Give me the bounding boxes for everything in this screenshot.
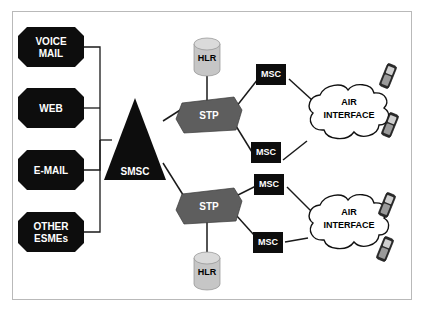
cloud-air-interface-upper[interactable]: AIR INTERFACE <box>309 85 388 139</box>
link-stp-upper-msc1 <box>236 79 258 107</box>
msc-lower-2[interactable]: MSC <box>253 232 283 253</box>
stp-upper-label: STP <box>199 110 219 121</box>
hlr-upper[interactable]: HLR <box>194 38 220 76</box>
smsc-node[interactable]: SMSC <box>104 98 166 180</box>
link-msc-upper2-cloud <box>283 141 307 160</box>
link-smsc-stp-lower <box>163 163 185 198</box>
link-msc-lower1-cloud <box>287 187 312 212</box>
msc-lower-2-label: MSC <box>258 237 279 247</box>
network-diagram: VOICE MAIL WEB E-MAIL OTHER ESMEs SMSC H… <box>0 0 422 317</box>
esme-bus-lines <box>84 47 112 232</box>
stp-lower[interactable]: STP <box>176 188 242 224</box>
esme-voice-mail[interactable]: VOICE MAIL <box>18 27 84 67</box>
link-stp-upper-msc2 <box>236 126 252 152</box>
msc-upper-2-label: MSC <box>256 147 277 157</box>
hlr-lower[interactable]: HLR <box>194 252 220 290</box>
msc-upper-1[interactable]: MSC <box>256 64 286 85</box>
link-msc-lower2-cloud <box>285 238 308 242</box>
esme-voice-mail-label-line2: MAIL <box>39 48 63 59</box>
esme-other-label-line2: ESMEs <box>34 233 68 244</box>
link-stp-lower-msc1 <box>236 186 256 196</box>
cloud-air-interface-lower[interactable]: AIR INTERFACE <box>309 195 388 249</box>
stp-lower-label: STP <box>199 201 219 212</box>
msc-upper-2[interactable]: MSC <box>251 142 281 163</box>
esme-e-mail[interactable]: E-MAIL <box>18 150 84 190</box>
link-stp-lower-msc2 <box>236 215 254 235</box>
handset-upper-1[interactable] <box>379 63 397 89</box>
msc-upper-1-label: MSC <box>261 69 282 79</box>
smsc-label: SMSC <box>121 166 150 177</box>
esme-web[interactable]: WEB <box>18 88 84 128</box>
esme-e-mail-label: E-MAIL <box>34 165 68 176</box>
cloud-upper-label-line1: AIR <box>341 97 357 107</box>
hlr-upper-label: HLR <box>198 53 217 63</box>
link-msc-upper1-cloud <box>289 79 312 100</box>
esme-voice-mail-label-line1: VOICE <box>35 36 66 47</box>
cloud-upper-label-line2: INTERFACE <box>323 110 374 120</box>
esme-other-label-line1: OTHER <box>34 221 70 232</box>
msc-lower-1[interactable]: MSC <box>254 174 284 195</box>
cloud-lower-label-line1: AIR <box>341 207 357 217</box>
esme-web-label: WEB <box>39 103 62 114</box>
esme-other-esmes[interactable]: OTHER ESMEs <box>18 212 84 252</box>
handset-lower-2[interactable] <box>376 236 394 262</box>
diagram-canvas: VOICE MAIL WEB E-MAIL OTHER ESMEs SMSC H… <box>0 0 422 317</box>
hlr-lower-label: HLR <box>198 267 217 277</box>
stp-upper[interactable]: STP <box>176 97 242 133</box>
cloud-lower-label-line2: INTERFACE <box>323 220 374 230</box>
msc-lower-1-label: MSC <box>259 179 280 189</box>
